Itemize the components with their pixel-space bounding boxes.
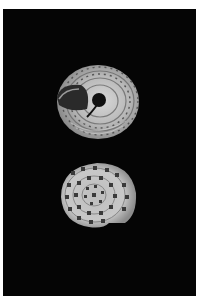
shell-umbilical-view xyxy=(51,61,141,143)
shell-apical-view xyxy=(59,161,139,229)
specimen-photo: Photograph of two views of a small spott… xyxy=(3,9,196,296)
